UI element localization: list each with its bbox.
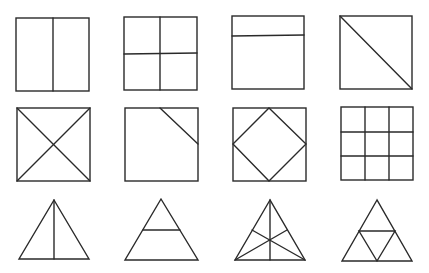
triangle-four-subtriangles [342, 200, 412, 261]
shapes-diagram [0, 0, 429, 273]
square-halved-vertical [16, 18, 89, 91]
triangle-median [19, 200, 89, 259]
square-ninths-grid [341, 107, 413, 180]
square-diagonal [340, 16, 412, 89]
square-both-diagonals [17, 108, 90, 181]
square-quarters [124, 17, 197, 90]
square-corner-cut [125, 108, 198, 181]
square-inscribed-diamond [233, 108, 306, 181]
triangle-three-medians [235, 200, 305, 260]
triangle-horizontal-cut [125, 199, 198, 260]
square-top-strip [232, 16, 304, 89]
